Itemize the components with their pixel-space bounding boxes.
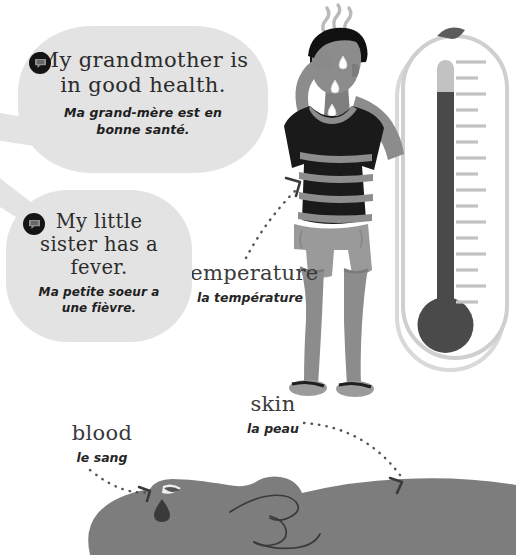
speech-bubble-glyph [28,219,41,230]
pointing-hand-illustration [88,477,516,555]
bubble-french-text: Ma petite soeur a une fièvre. [18,284,180,316]
vocab-label-temperature: temperature la température [180,262,320,306]
illustration-stage: My grandmother is in good health. Ma gra… [0,0,516,555]
bubble-english-text: My grandmother is in good health. [34,48,252,98]
arrow-blood [90,470,150,493]
speech-bubble-icon [29,52,51,74]
vocab-label-skin: skin la peau [218,393,328,437]
vocab-english: skin [218,393,328,416]
vocab-french: la peau [218,421,328,437]
thermometer-illustration [397,28,507,370]
speech-bubble-icon [23,213,45,235]
arrowhead-temperature [286,178,300,196]
speech-bubble-grandmother[interactable]: My grandmother is in good health. Ma gra… [18,26,268,173]
vocab-english: temperature [180,262,320,285]
bubble-french-text: Ma grand-mère est en bonne santé. [34,104,252,138]
vocab-french: la température [180,290,320,306]
vocab-french: le sang [57,450,147,466]
feverish-man-illustration [284,5,404,397]
vocab-english: blood [57,422,147,445]
speech-bubble-glyph [34,58,47,69]
arrow-temperature [246,190,296,258]
vocab-label-blood: blood le sang [57,422,147,466]
